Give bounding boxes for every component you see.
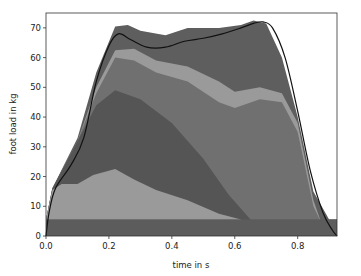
x-axis-ticks: 0.00.20.40.60.8 [39, 236, 304, 251]
y-tick-label: 50 [30, 82, 41, 92]
base-band [46, 220, 337, 236]
x-tick-label: 0.6 [228, 241, 242, 251]
stacked-area-chart: 0.00.20.40.60.8 010203040506070 time in … [0, 0, 361, 276]
y-tick-label: 60 [30, 53, 41, 63]
x-tick-label: 0.2 [102, 241, 116, 251]
x-tick-label: 0.4 [165, 241, 179, 251]
y-tick-label: 40 [30, 112, 41, 122]
y-tick-label: 30 [30, 142, 41, 152]
y-tick-label: 10 [30, 201, 41, 211]
x-axis-label: time in s [173, 260, 210, 270]
x-tick-label: 0.8 [291, 241, 305, 251]
y-axis-label: foot load in kg [8, 93, 18, 154]
y-tick-label: 70 [30, 23, 41, 33]
y-axis-ticks: 010203040506070 [30, 23, 46, 241]
y-tick-label: 0 [36, 231, 41, 241]
y-tick-label: 20 [30, 172, 41, 182]
x-tick-label: 0.0 [39, 241, 53, 251]
area-layers [46, 20, 337, 236]
